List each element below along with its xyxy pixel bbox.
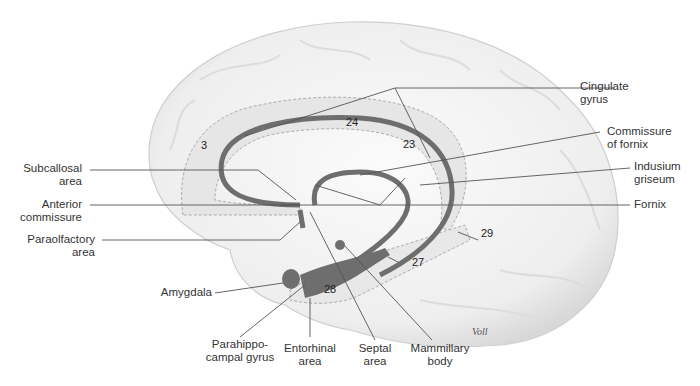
label-septal-area: Septal area: [350, 342, 400, 368]
label-mammillary-body: Mammillary body: [405, 342, 475, 368]
artist-signature: Voll: [472, 326, 488, 337]
area-number-24: 24: [346, 116, 358, 128]
label-commissure-of-fornix: Commissure of fornix: [607, 125, 672, 151]
label-parahippocampal-gyrus: Parahippo- campal gyrus: [195, 338, 285, 364]
limbic-system-figure: Voll 3 24 23 29 27 28 Cingulate gyrus Co…: [0, 0, 700, 386]
label-indusium-griseum: Indusium griseum: [634, 160, 681, 186]
area-number-3: 3: [201, 139, 207, 151]
label-fornix: Fornix: [634, 198, 666, 211]
area-number-28: 28: [324, 283, 336, 295]
area-number-23: 23: [403, 138, 415, 150]
label-amygdala: Amygdala: [161, 286, 212, 299]
label-anterior-commissure: Anterior commissure: [20, 198, 82, 224]
label-paraolfactory-area: Paraolfactory area: [27, 233, 95, 259]
label-cingulate-gyrus: Cingulate gyrus: [580, 80, 629, 106]
label-entorhinal-area: Entorhinal area: [280, 342, 340, 368]
area-number-29: 29: [481, 227, 493, 239]
area-number-27: 27: [412, 256, 424, 268]
label-subcallosal-area: Subcallosal area: [23, 162, 82, 188]
brain-illustration: Voll: [0, 0, 700, 386]
